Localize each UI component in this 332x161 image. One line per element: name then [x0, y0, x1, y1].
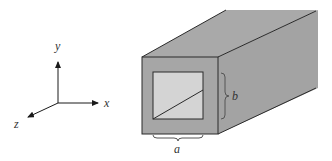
dimension-a-label: a — [174, 142, 180, 156]
y-axis-label: y — [54, 39, 61, 53]
coordinate-axes: y x z — [13, 39, 110, 131]
diagram-svg: y x z b a — [0, 0, 332, 161]
waveguide-diagram: y x z b a — [0, 0, 332, 161]
dimension-b-label: b — [232, 89, 238, 103]
waveguide — [142, 10, 318, 134]
z-axis-label: z — [13, 117, 19, 131]
brace-a — [153, 135, 203, 141]
dimension-a: a — [153, 135, 203, 156]
waveguide-interior — [153, 72, 203, 119]
z-axis-arrow — [28, 103, 58, 117]
x-axis-label: x — [103, 96, 110, 110]
